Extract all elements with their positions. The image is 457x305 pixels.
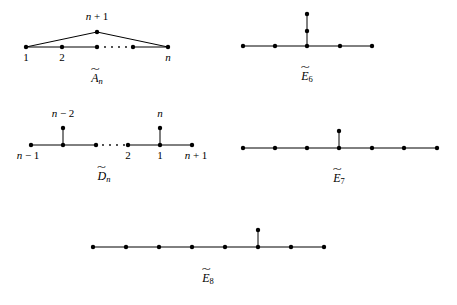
graph-e-tilde-8	[0, 0, 457, 305]
node-8-vertex	[322, 245, 326, 249]
node-2-vertex	[124, 245, 128, 249]
caption-base-letter: E	[202, 270, 209, 284]
node-1-vertex	[91, 245, 95, 249]
node-5-vertex	[223, 245, 227, 249]
caption-e-tilde-8: E8	[202, 270, 214, 286]
node-7-vertex	[289, 245, 293, 249]
caption-subscript: 8	[210, 276, 214, 286]
diagram-e-tilde-8: E8	[0, 0, 457, 305]
node-4-vertex	[190, 245, 194, 249]
dynkin-diagram-figure: n + 112nAnE6n − 2nn − 121n + 1DnE7E8	[0, 0, 457, 305]
node-branch-vertex	[256, 228, 260, 232]
node-center-vertex	[256, 245, 260, 249]
node-3-vertex	[157, 245, 161, 249]
